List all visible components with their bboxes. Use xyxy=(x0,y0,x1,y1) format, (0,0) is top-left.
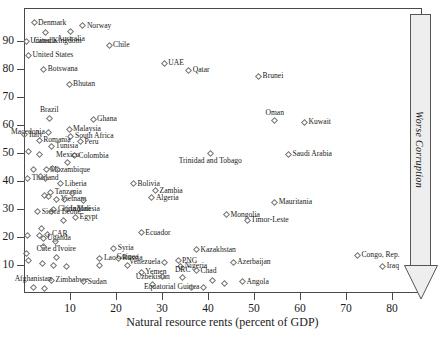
x-axis-tick-label: 70 xyxy=(331,302,361,314)
data-point-label: Kuwait xyxy=(309,118,331,126)
data-point-label: Sudan xyxy=(88,278,107,286)
y-axis-tick xyxy=(17,181,24,182)
x-axis-tick xyxy=(254,293,255,300)
data-point-label: Thailand xyxy=(32,174,59,182)
y-axis-tick xyxy=(17,125,24,126)
x-axis-tick-label: 80 xyxy=(377,302,407,314)
y-axis-tick-label: 80 xyxy=(0,62,14,74)
data-point-label: Côte d'Ivoire xyxy=(36,245,76,253)
data-point-label: Oman xyxy=(265,109,284,117)
data-point-label: Peru xyxy=(85,138,99,146)
data-point-label: DRC xyxy=(175,266,191,274)
y-axis-tick-label: 40 xyxy=(0,174,14,186)
y-axis-tick-label: 70 xyxy=(0,90,14,102)
data-point-label: Uzbekistan xyxy=(136,273,170,281)
y-axis-tick xyxy=(17,153,24,154)
scatter-chart: 1020304050607080901020304050607080 Denma… xyxy=(0,0,445,338)
data-point-label: Mexico xyxy=(56,151,79,159)
data-point-label: Algeria xyxy=(156,194,179,202)
data-point-label: Ecuador xyxy=(145,229,170,237)
data-point-label: Equatorial Guinea xyxy=(144,283,199,291)
x-axis-tick-label: 30 xyxy=(147,302,177,314)
data-point-label: Saudi Arabia xyxy=(293,150,332,158)
data-point-label: United States xyxy=(33,51,74,59)
x-axis-tick-label: 40 xyxy=(193,302,223,314)
data-point-label: Qatar xyxy=(193,66,210,74)
x-axis-tick xyxy=(208,293,209,300)
y-axis-tick xyxy=(17,237,24,238)
x-axis-tick-label: 60 xyxy=(285,302,315,314)
data-point-label: Denmark xyxy=(38,19,66,27)
data-point-label: United Kingdom xyxy=(30,37,81,45)
y-axis-tick-label: 50 xyxy=(0,146,14,158)
y-axis-tick-label: 30 xyxy=(0,202,14,214)
y-axis-tick xyxy=(17,97,24,98)
data-point-label: Bolivia xyxy=(137,180,159,188)
x-axis-tick xyxy=(70,293,71,300)
data-point-label: Colombia xyxy=(79,152,109,160)
data-point-label: Tunisia xyxy=(56,142,79,150)
y-axis-tick xyxy=(17,69,24,70)
x-axis-tick-label: 50 xyxy=(239,302,269,314)
data-point-label: Egypt xyxy=(80,213,98,221)
y-axis-tick-label: 10 xyxy=(0,258,14,270)
x-axis-title: Natural resource rents (percent of GDP) xyxy=(0,315,445,330)
data-point-label: Bhutan xyxy=(73,80,95,88)
data-point-label: Angola xyxy=(247,278,269,286)
x-axis-tick-label: 20 xyxy=(101,302,131,314)
data-point-label: Afghanistan xyxy=(15,275,52,283)
y-axis-tick xyxy=(17,41,24,42)
data-point-label: Chad xyxy=(201,267,217,275)
x-axis-tick xyxy=(116,293,117,300)
arrow-label: Worse Corruption xyxy=(414,50,425,250)
y-axis-tick-label: 20 xyxy=(0,230,14,242)
data-point-label: Mauritania xyxy=(279,198,312,206)
data-point-label: Vietnam xyxy=(61,195,87,203)
data-point-label: Kazakhstan xyxy=(201,246,236,254)
x-axis-tick xyxy=(346,293,347,300)
data-point-label: Lao xyxy=(104,254,116,262)
data-point-label: Congo, Rep. xyxy=(362,251,400,259)
worse-corruption-arrow: Worse Corruption xyxy=(404,14,438,302)
data-point-label: Ghana xyxy=(97,115,117,123)
x-axis-tick xyxy=(300,293,301,300)
data-point-label: Iraq xyxy=(387,262,399,270)
x-axis-tick-label: 10 xyxy=(55,302,85,314)
arrow-head-icon xyxy=(404,265,438,300)
y-axis-tick xyxy=(17,265,24,266)
data-point-label: Trinidad and Tobago xyxy=(179,157,242,165)
data-point-label: Botswana xyxy=(48,65,78,73)
y-axis-tick-label: 90 xyxy=(0,34,14,46)
x-axis-tick xyxy=(162,293,163,300)
data-point-label: Timor-Leste xyxy=(251,216,289,224)
data-point-label: Brazil xyxy=(40,106,59,114)
data-point-label: Italy xyxy=(29,131,43,139)
data-point-label: Syria xyxy=(118,244,134,252)
data-point-label: Uganda xyxy=(47,234,71,242)
data-point-label: UAE xyxy=(168,59,184,67)
data-point-label: Guinea xyxy=(117,253,139,261)
data-point-label: Norway xyxy=(87,22,111,30)
data-point-label: Brunei xyxy=(263,72,284,80)
y-axis-tick xyxy=(17,209,24,210)
data-point-label: Zimbabwe xyxy=(56,276,88,284)
x-axis-tick xyxy=(392,293,393,300)
data-point-label: Chile xyxy=(113,41,129,49)
data-point-label: Sierra Leone xyxy=(42,208,81,216)
data-point-label: Azerbaijan xyxy=(237,258,270,266)
